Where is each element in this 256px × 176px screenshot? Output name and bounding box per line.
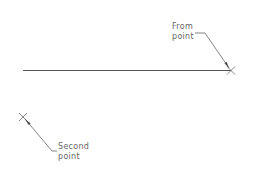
diagram-canvas (0, 0, 256, 176)
from-point-label: From point (172, 22, 194, 42)
from-point-leader (195, 33, 229, 68)
second-point-label-line2: point (58, 152, 89, 162)
second-leader-arrowhead-icon (25, 119, 31, 125)
second-point-label-line1: Second (58, 142, 89, 152)
second-point-leader (25, 119, 57, 151)
from-point-label-line2: point (172, 32, 194, 42)
second-point-label: Second point (58, 142, 89, 162)
from-point-label-line1: From (172, 22, 194, 32)
